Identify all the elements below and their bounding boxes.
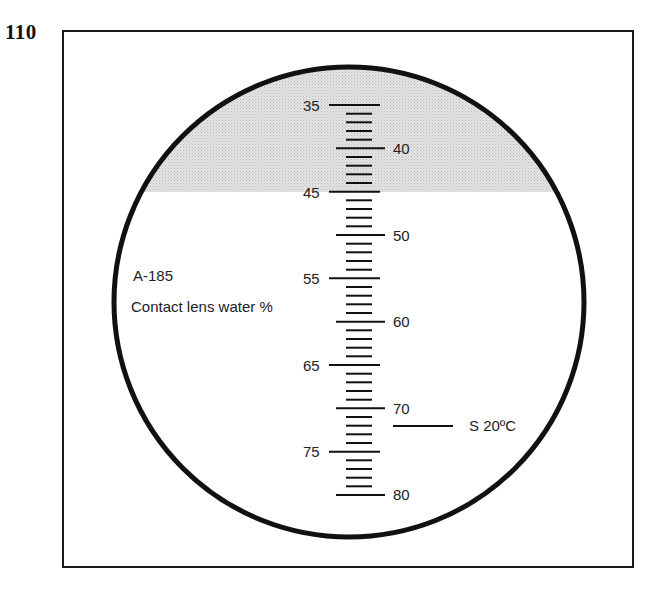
tick-label-80: 80 bbox=[393, 487, 410, 502]
model-label: A-185 bbox=[133, 268, 173, 283]
scale-title: Contact lens water % bbox=[131, 299, 273, 314]
shaded-region bbox=[100, 50, 600, 192]
tick-label-60: 60 bbox=[393, 314, 410, 329]
tick-label-45: 45 bbox=[303, 185, 320, 200]
tick-label-70: 70 bbox=[393, 401, 410, 416]
tick-label-75: 75 bbox=[303, 444, 320, 459]
tick-label-35: 35 bbox=[303, 98, 320, 113]
tick-label-65: 65 bbox=[303, 358, 320, 373]
calibration-label: S 20ºC bbox=[469, 418, 516, 433]
tick-label-50: 50 bbox=[393, 228, 410, 243]
tick-label-40: 40 bbox=[393, 141, 410, 156]
tick-label-55: 55 bbox=[303, 271, 320, 286]
refractometer-view bbox=[0, 0, 656, 594]
